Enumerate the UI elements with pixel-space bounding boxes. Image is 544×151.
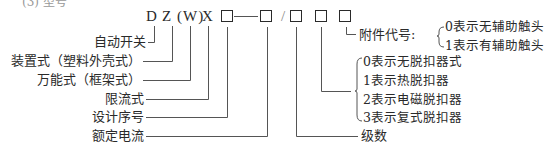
line-w [143,26,191,81]
line-box3 [297,27,359,137]
label-frame-type: 万能式（框架式） [37,72,141,88]
line-box4 [322,27,352,92]
code-box-rated-current [260,10,272,22]
code-letter-w: (W) [177,7,204,25]
code-box-design-number [221,10,233,22]
label-current-limiting: 限流式 [105,91,144,107]
code-slash: / [281,7,286,25]
release-brace [355,58,362,121]
code-box-release [315,10,327,22]
accessory-option-0: 0表示无辅助触头 [445,19,544,35]
label-poles: 级数 [361,128,387,144]
code-box-accessory [339,10,351,22]
label-rated-current: 额定电流 [92,128,144,144]
line-x [146,26,209,100]
label-accessory-code: 附件代号: [359,27,415,43]
line-box5 [347,27,357,35]
release-option-2: 2表示电磁脱扣器 [363,92,462,108]
label-design-number: 设计序号 [92,109,144,125]
release-option-1: 1表示热脱扣器 [363,73,449,89]
release-option-3: 3表示复式脱扣器 [363,110,462,126]
line-box2 [146,27,268,137]
label-molded-case: 装置式（塑料外壳式） [11,53,141,69]
line-box1 [146,27,228,118]
line-d [148,26,155,43]
label-auto-switch: 自动开关 [94,34,146,50]
accessory-option-1: 1表示有辅助触头 [445,38,544,54]
code-box-poles [290,10,302,22]
release-option-0: 0表示无脱扣器式 [363,54,462,70]
accessory-brace [437,27,444,47]
code-letter-x: X [202,7,214,25]
code-letter-z: Z [162,7,172,25]
code-letter-d: D [146,7,158,25]
line-z [143,26,173,62]
